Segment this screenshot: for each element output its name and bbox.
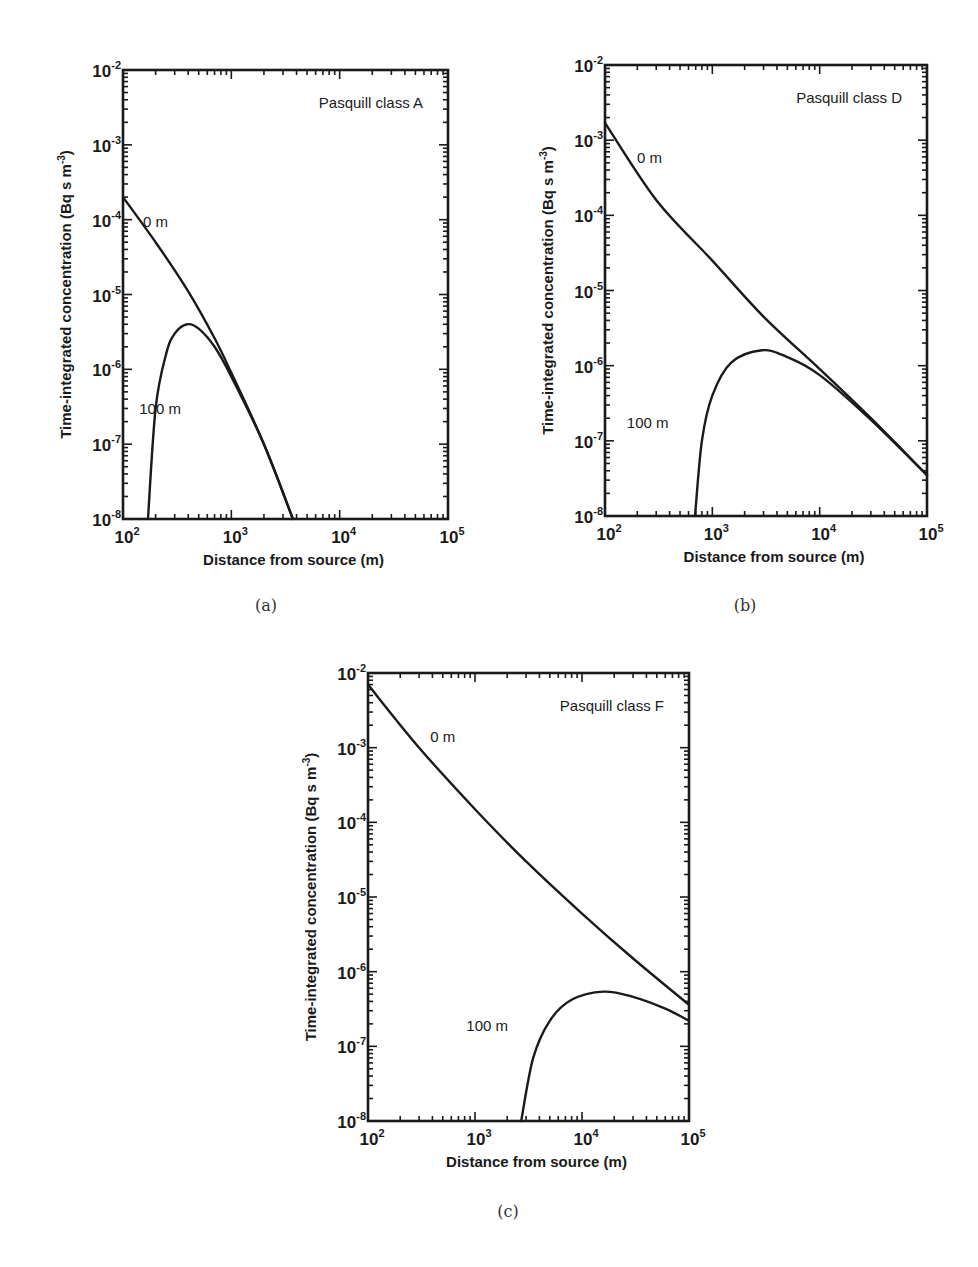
x-axis-title: Distance from source (m) [446, 1153, 627, 1170]
axis-ticks [368, 673, 689, 1121]
series-line-100m [521, 992, 689, 1121]
y-axis-title: Time-integrated concentration (Bq s m-3) [301, 753, 319, 1042]
series-label: 100 m [466, 1017, 508, 1034]
x-tick-label: 105 [680, 1127, 705, 1149]
y-tick-label: 10-8 [337, 1110, 366, 1132]
caption-b: (b) [734, 596, 757, 615]
series-label: 0 m [430, 728, 455, 745]
x-tick-label: 103 [466, 1127, 491, 1149]
y-tick-label: 10-2 [337, 662, 366, 684]
panel-title: Pasquill class F [560, 697, 664, 714]
x-tick-label: 102 [359, 1127, 384, 1149]
caption-a: (a) [255, 596, 277, 615]
y-tick-label: 10-7 [337, 1035, 366, 1057]
y-tick-label: 10-6 [337, 961, 366, 983]
y-tick-label: 10-3 [337, 737, 366, 759]
y-tick-label: 10-4 [337, 811, 367, 833]
caption-c: (c) [497, 1202, 518, 1221]
plot-frame [368, 673, 689, 1121]
y-tick-label: 10-5 [337, 886, 366, 908]
chart-svg: 10210310410510-810-710-610-510-410-310-2… [0, 0, 978, 1267]
series-line-0m [368, 685, 689, 1005]
x-tick-label: 104 [573, 1127, 599, 1149]
